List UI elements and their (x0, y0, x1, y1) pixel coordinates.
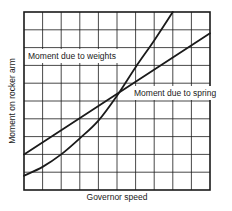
weights-curve-label: Moment due to weights (26, 49, 132, 63)
y-axis-label: Moment on rocker arm (7, 58, 17, 144)
spring-line-label: Moment due to spring (132, 86, 226, 100)
grid (24, 12, 210, 190)
governor-chart (0, 0, 232, 211)
x-axis-label: Governor speed (87, 192, 148, 202)
